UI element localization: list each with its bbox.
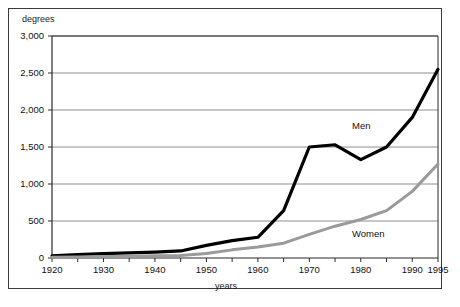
data-series bbox=[52, 69, 438, 257]
plot-area bbox=[0, 0, 460, 307]
chart-figure: degrees years Men Women 3,0002,5002,0001… bbox=[0, 0, 460, 307]
gridlines bbox=[52, 36, 438, 258]
series-line-women bbox=[52, 164, 438, 257]
series-line-men bbox=[52, 69, 438, 255]
